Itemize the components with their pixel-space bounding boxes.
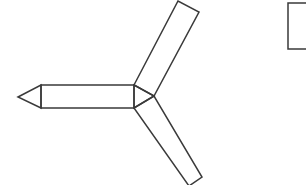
left-arm-tip: [18, 85, 41, 108]
upper-arm: [134, 1, 199, 96]
center-triangle: [134, 85, 154, 108]
three-arm-figure: [0, 0, 306, 185]
lower-arm: [134, 96, 202, 185]
left-arm-body: [41, 85, 134, 108]
partial-box: [288, 3, 306, 49]
